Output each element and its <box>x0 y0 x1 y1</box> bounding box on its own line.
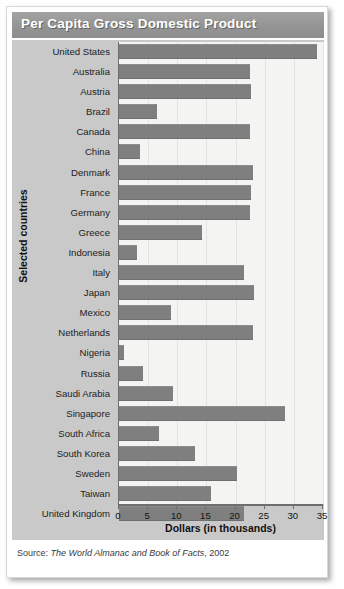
x-tick <box>264 506 265 509</box>
bar-row <box>119 323 323 343</box>
category-label: Austria <box>12 82 114 102</box>
bar-row <box>119 464 323 484</box>
bar <box>119 64 250 79</box>
category-label: Indonesia <box>12 243 114 263</box>
bar-row <box>119 223 323 243</box>
bar-row <box>119 384 323 404</box>
bar <box>119 366 143 381</box>
bar-row <box>119 243 323 263</box>
category-label: South Africa <box>12 424 114 444</box>
category-label: Australia <box>12 62 114 82</box>
bar <box>119 305 171 320</box>
bar <box>119 466 237 481</box>
bar-row <box>119 203 323 223</box>
bar <box>119 104 157 119</box>
x-tick <box>293 506 294 509</box>
bar <box>119 265 244 280</box>
category-label: Canada <box>12 122 114 142</box>
source-note: Source: The World Almanac and Book of Fa… <box>17 548 229 558</box>
x-tick-label: 5 <box>144 510 149 521</box>
category-label: Germany <box>12 203 114 223</box>
bar-rows <box>119 42 323 504</box>
category-label: Singapore <box>12 404 114 424</box>
source-year: , 2002 <box>204 548 229 558</box>
x-tick-label: 15 <box>200 510 211 521</box>
x-axis-ticks: 05101520253035 <box>118 506 323 522</box>
x-tick-label: 10 <box>171 510 182 521</box>
bar-row <box>119 102 323 122</box>
bar-row <box>119 364 323 384</box>
bar <box>119 165 253 180</box>
category-label: Nigeria <box>12 343 114 363</box>
bar-row <box>119 343 323 363</box>
chart-card: Per Capita Gross Domestic Product Select… <box>6 6 328 578</box>
bar <box>119 386 173 401</box>
bar <box>119 325 253 340</box>
category-label: China <box>12 142 114 162</box>
bar-row <box>119 404 323 424</box>
category-label: Denmark <box>12 163 114 183</box>
bar-row <box>119 42 323 62</box>
category-label: Mexico <box>12 303 114 323</box>
bar-row <box>119 484 323 504</box>
x-tick <box>118 506 119 509</box>
x-tick-label: 25 <box>258 510 269 521</box>
x-tick <box>235 506 236 509</box>
bar-row <box>119 183 323 203</box>
x-axis-title: Dollars (in thousands) <box>118 522 323 534</box>
bar <box>119 144 140 159</box>
bar-row <box>119 142 323 162</box>
bar <box>119 124 250 139</box>
x-tick <box>322 506 323 509</box>
chart-title-bar: Per Capita Gross Domestic Product <box>12 12 324 38</box>
bar-row <box>119 82 323 102</box>
bar <box>119 426 159 441</box>
bar-row <box>119 444 323 464</box>
bar <box>119 446 195 461</box>
category-label: Saudi Arabia <box>12 384 114 404</box>
x-tick <box>147 506 148 509</box>
bar-row <box>119 163 323 183</box>
category-label: Brazil <box>12 102 114 122</box>
bar-row <box>119 263 323 283</box>
category-label: South Korea <box>12 444 114 464</box>
category-label: Netherlands <box>12 323 114 343</box>
source-prefix: Source: <box>17 548 48 558</box>
bar <box>119 285 254 300</box>
bar <box>119 205 250 220</box>
x-tick-label: 0 <box>115 510 120 521</box>
bar-row <box>119 122 323 142</box>
category-label: United Kingdom <box>12 504 114 524</box>
category-label: Russia <box>12 364 114 384</box>
bar-row <box>119 283 323 303</box>
bar <box>119 84 251 99</box>
category-label: France <box>12 183 114 203</box>
bar <box>119 345 124 360</box>
source-work: The World Almanac and Book of Facts <box>51 548 205 558</box>
bar <box>119 245 137 260</box>
x-tick-label: 30 <box>288 510 299 521</box>
category-label: Sweden <box>12 464 114 484</box>
chart-area: Selected countries United StatesAustrali… <box>12 40 324 540</box>
category-label-list: United StatesAustraliaAustriaBrazilCanad… <box>12 42 114 524</box>
bar <box>119 44 317 59</box>
gridline <box>323 42 324 504</box>
x-tick <box>176 506 177 509</box>
x-tick-label: 20 <box>229 510 240 521</box>
category-label: Japan <box>12 283 114 303</box>
category-label: Italy <box>12 263 114 283</box>
plot-background <box>118 42 323 504</box>
bar-row <box>119 62 323 82</box>
category-label: United States <box>12 42 114 62</box>
x-tick <box>205 506 206 509</box>
bar <box>119 406 285 421</box>
bar-row <box>119 424 323 444</box>
category-label: Taiwan <box>12 484 114 504</box>
chart-page: Per Capita Gross Domestic Product Select… <box>0 0 344 589</box>
page-title: Per Capita Gross Domestic Product <box>21 16 256 31</box>
bar <box>119 185 251 200</box>
bar-row <box>119 303 323 323</box>
x-tick-label: 35 <box>317 510 328 521</box>
bar <box>119 225 202 240</box>
bar <box>119 486 211 501</box>
